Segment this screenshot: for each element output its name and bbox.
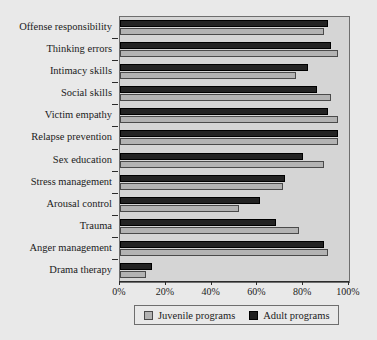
y-tick-mark	[112, 215, 118, 216]
x-tick-label: 100%	[328, 286, 368, 297]
bar-group	[120, 238, 349, 260]
y-tick-mark	[112, 259, 118, 260]
bar-adult-programs	[120, 153, 303, 160]
x-axis-line	[119, 281, 349, 282]
x-tick-mark	[119, 281, 120, 285]
bar-group	[120, 61, 349, 83]
bar-adult-programs	[120, 219, 276, 226]
bar-juvenile-programs	[120, 161, 324, 168]
x-tick-label: 60%	[236, 286, 276, 297]
bar-adult-programs	[120, 20, 328, 27]
adult-swatch	[249, 311, 258, 320]
category-label: Trauma	[0, 220, 112, 231]
y-tick-mark	[112, 149, 118, 150]
y-tick-mark	[112, 126, 118, 127]
x-tick-label: 0%	[99, 286, 139, 297]
category-label: Sex education	[0, 154, 112, 165]
y-tick-mark	[112, 193, 118, 194]
x-tick-mark	[348, 281, 349, 285]
bar-juvenile-programs	[120, 249, 328, 256]
bar-juvenile-programs	[120, 116, 338, 123]
bar-adult-programs	[120, 197, 260, 204]
bar-juvenile-programs	[120, 205, 239, 212]
bar-group	[120, 127, 349, 149]
bar-adult-programs	[120, 263, 152, 270]
x-tick-mark	[165, 281, 166, 285]
category-label: Offense responsibility	[0, 21, 112, 32]
bar-group	[120, 260, 349, 282]
bar-group	[120, 216, 349, 238]
bar-adult-programs	[120, 42, 331, 49]
legend-label: Juvenile programs	[158, 310, 235, 321]
category-label: Social skills	[0, 87, 112, 98]
bar-adult-programs	[120, 241, 324, 248]
category-label: Arousal control	[0, 198, 112, 209]
legend-item: Adult programs	[249, 310, 329, 321]
category-label: Thinking errors	[0, 43, 112, 54]
bar-adult-programs	[120, 175, 285, 182]
chart-legend: Juvenile programsAdult programs	[134, 305, 339, 325]
legend-item: Juvenile programs	[144, 310, 235, 321]
bar-group	[120, 39, 349, 61]
y-tick-mark	[112, 38, 118, 39]
bar-group	[120, 194, 349, 216]
x-tick-mark	[302, 281, 303, 285]
juvenile-swatch	[144, 311, 153, 320]
category-label: Anger management	[0, 242, 112, 253]
x-tick-mark	[211, 281, 212, 285]
category-label: Victim empathy	[0, 109, 112, 120]
bar-juvenile-programs	[120, 72, 296, 79]
y-tick-mark	[112, 82, 118, 83]
bar-chart-figure: Offense responsibilityThinking errorsInt…	[0, 0, 377, 340]
x-tick-label: 20%	[145, 286, 185, 297]
bar-group	[120, 105, 349, 127]
category-label: Intimacy skills	[0, 65, 112, 76]
category-label: Relapse prevention	[0, 131, 112, 142]
bar-group	[120, 83, 349, 105]
bar-adult-programs	[120, 108, 328, 115]
y-tick-mark	[112, 171, 118, 172]
bar-juvenile-programs	[120, 183, 283, 190]
bar-juvenile-programs	[120, 50, 338, 57]
x-tick-label: 40%	[191, 286, 231, 297]
x-tick-label: 80%	[282, 286, 322, 297]
y-tick-mark	[112, 104, 118, 105]
bar-group	[120, 150, 349, 172]
category-axis-labels: Offense responsibilityThinking errorsInt…	[0, 16, 112, 281]
plot-area	[119, 16, 350, 283]
bar-adult-programs	[120, 130, 338, 137]
category-label: Drama therapy	[0, 264, 112, 275]
bar-adult-programs	[120, 86, 317, 93]
bar-group	[120, 172, 349, 194]
bar-juvenile-programs	[120, 138, 338, 145]
bar-group	[120, 17, 349, 39]
bar-adult-programs	[120, 64, 308, 71]
y-tick-mark	[112, 60, 118, 61]
bar-juvenile-programs	[120, 227, 299, 234]
category-label: Stress management	[0, 176, 112, 187]
y-tick-mark	[112, 237, 118, 238]
bar-juvenile-programs	[120, 94, 331, 101]
x-tick-mark	[256, 281, 257, 285]
bar-juvenile-programs	[120, 28, 324, 35]
bar-juvenile-programs	[120, 271, 146, 278]
legend-label: Adult programs	[263, 310, 329, 321]
